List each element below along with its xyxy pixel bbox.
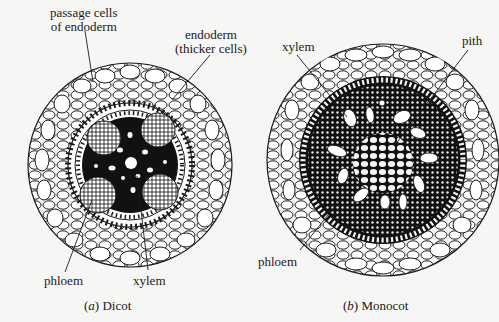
- dicot-root-section: [28, 63, 232, 267]
- label-dicot-phloem: phloem: [44, 274, 83, 288]
- caption-letter: a: [88, 298, 95, 313]
- label-monocot-pith: pith: [462, 34, 482, 48]
- label-passage-cells-of-endoderm: passage cells of endoderm: [50, 6, 118, 34]
- label-text: endoderm: [175, 28, 247, 42]
- caption-text: Dicot: [102, 298, 131, 313]
- label-monocot-phloem: phloem: [258, 255, 297, 269]
- label-text: of endoderm: [50, 20, 118, 34]
- caption-dicot: (a) Dicot: [84, 298, 131, 314]
- label-endoderm-thicker-cells: endoderm (thicker cells): [175, 28, 247, 56]
- label-dicot-xylem: xylem: [133, 274, 166, 288]
- label-monocot-xylem: xylem: [282, 40, 315, 54]
- monocot-root-section: [267, 44, 499, 276]
- caption-letter: b: [347, 298, 354, 313]
- label-text: passage cells: [50, 6, 118, 20]
- caption-text: Monocot: [361, 298, 408, 313]
- caption-monocot: (b) Monocot: [343, 298, 408, 314]
- label-text: (thicker cells): [175, 42, 247, 56]
